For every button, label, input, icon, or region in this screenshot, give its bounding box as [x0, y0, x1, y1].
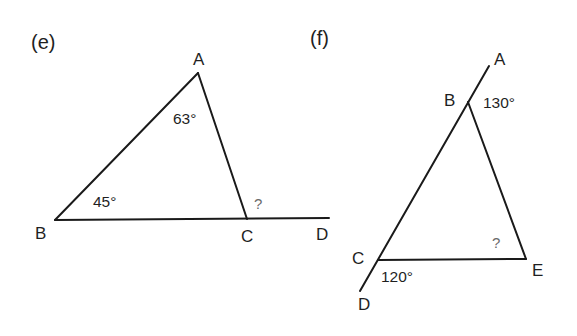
segment-f-ce	[378, 259, 526, 260]
angle-label-f-c: 120°	[381, 269, 413, 285]
angle-label-e-a: 63°	[173, 111, 196, 127]
segment-e-ac	[198, 73, 247, 219]
vertex-label-e-d: D	[316, 226, 328, 243]
unknown-angle-f-e: ?	[492, 235, 500, 250]
vertex-label-f-c: C	[352, 250, 364, 267]
part-label-e: (e)	[31, 32, 55, 52]
segment-f-ad	[360, 66, 489, 291]
vertex-label-f-a: A	[494, 51, 505, 68]
diagram-lines	[0, 0, 577, 336]
vertex-label-e-c: C	[241, 228, 253, 245]
angle-label-e-b: 45°	[93, 194, 116, 210]
vertex-label-e-a: A	[193, 51, 204, 68]
segment-e-ab	[55, 73, 198, 220]
vertex-label-f-d: D	[358, 296, 370, 313]
part-label-f: (f)	[310, 28, 329, 48]
geometry-exercise: (e) A B C D 63° 45° ? (f) A B C D E 130°…	[0, 0, 577, 336]
unknown-angle-e-c: ?	[254, 196, 262, 211]
angle-label-f-b: 130°	[483, 95, 515, 111]
vertex-label-e-b: B	[35, 225, 46, 242]
vertex-label-f-b: B	[444, 92, 455, 109]
vertex-label-f-e: E	[532, 262, 543, 279]
segment-e-bd	[55, 218, 329, 220]
